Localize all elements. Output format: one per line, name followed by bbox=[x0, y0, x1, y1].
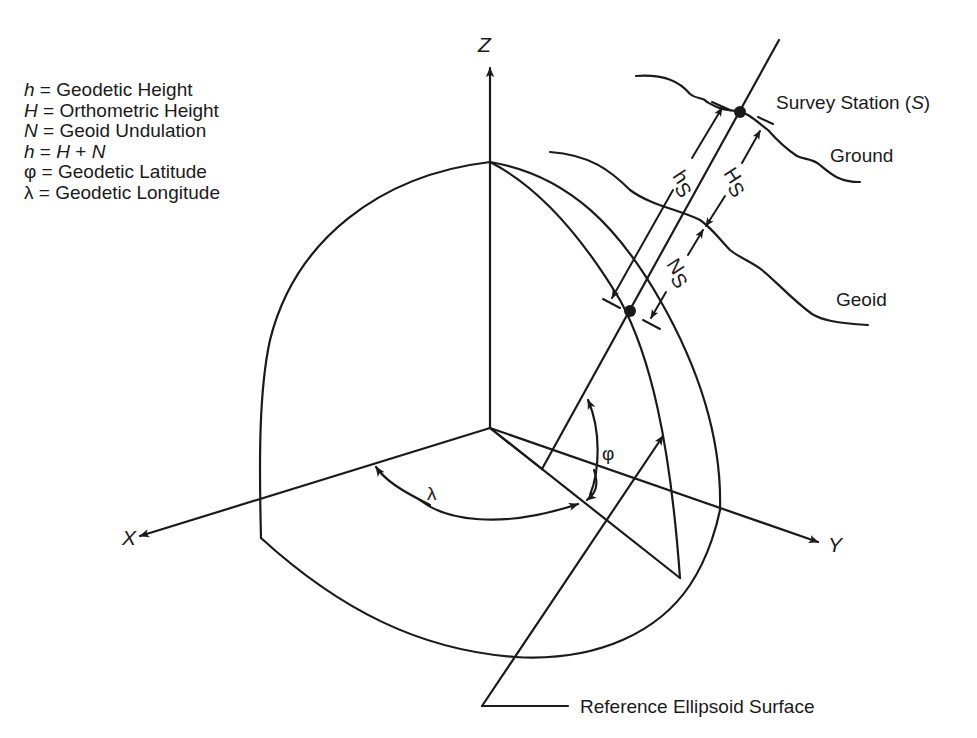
geodetic-height-dimension bbox=[603, 102, 730, 308]
reference-ellipsoid-label: Reference Ellipsoid Surface bbox=[580, 696, 814, 717]
ground-label: Ground bbox=[830, 145, 893, 166]
x-axis bbox=[140, 428, 490, 536]
latitude-symbol: φ bbox=[602, 443, 614, 464]
geoid-curve bbox=[550, 152, 868, 325]
y-axis bbox=[490, 428, 818, 542]
geodetic-diagram: Reference Ellipsoid Surface Ground Geoid… bbox=[0, 0, 977, 738]
Hs-label: HS bbox=[715, 163, 753, 201]
survey-station-label: Survey Station (S) bbox=[776, 92, 930, 113]
longitude-symbol: λ bbox=[427, 483, 437, 504]
Ns-label: NS bbox=[658, 254, 696, 292]
geoid-label: Geoid bbox=[836, 289, 887, 310]
reference-ellipsoid-leader bbox=[482, 436, 663, 706]
latitude-arc bbox=[587, 400, 598, 500]
y-axis-label: Y bbox=[828, 533, 844, 556]
z-axis-label: Z bbox=[477, 33, 492, 56]
ellipsoid-point bbox=[624, 305, 636, 317]
survey-station-point bbox=[734, 106, 746, 118]
x-axis-label: X bbox=[121, 526, 137, 549]
